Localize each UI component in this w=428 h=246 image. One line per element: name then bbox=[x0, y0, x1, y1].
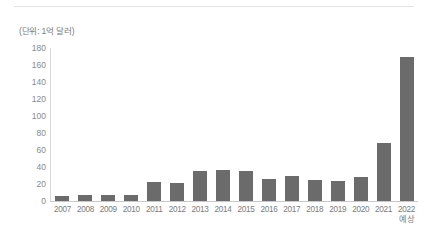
bar-slot bbox=[143, 48, 166, 201]
bar-slot bbox=[303, 48, 326, 201]
y-tick-label: 100 bbox=[6, 112, 46, 121]
bar-slot bbox=[280, 48, 303, 201]
x-tick-label: 2018 bbox=[303, 205, 326, 215]
bar[interactable] bbox=[170, 183, 184, 201]
bar[interactable] bbox=[308, 180, 322, 201]
x-tick-label-year: 2014 bbox=[215, 205, 232, 214]
y-tick-label: 120 bbox=[6, 95, 46, 104]
x-tick-label-year: 2012 bbox=[169, 205, 186, 214]
y-tick-label: 0 bbox=[6, 197, 46, 206]
x-tick-label: 2019 bbox=[326, 205, 349, 215]
y-tick-label: 60 bbox=[6, 146, 46, 155]
chart-page: (단위: 1억 달러) 020406080100120140160180 200… bbox=[0, 0, 428, 246]
bar-slot bbox=[235, 48, 258, 201]
x-tick-label: 2022예상 bbox=[395, 205, 418, 225]
bar-slot bbox=[326, 48, 349, 201]
y-tick-label: 40 bbox=[6, 163, 46, 172]
bar[interactable] bbox=[55, 196, 69, 201]
x-tick-label-year: 2019 bbox=[329, 205, 346, 214]
x-axis-line bbox=[50, 201, 418, 202]
y-tick-label: 160 bbox=[6, 61, 46, 70]
bar[interactable] bbox=[78, 195, 92, 201]
bar[interactable] bbox=[124, 195, 138, 201]
bar[interactable] bbox=[354, 177, 368, 201]
bar-series bbox=[51, 48, 418, 201]
bar-slot bbox=[120, 48, 143, 201]
x-tick-label: 2013 bbox=[189, 205, 212, 215]
bar-slot bbox=[74, 48, 97, 201]
x-tick-label: 2012 bbox=[166, 205, 189, 215]
x-tick-label-year: 2015 bbox=[237, 205, 254, 214]
bar-slot bbox=[97, 48, 120, 201]
x-tick-label-year: 2009 bbox=[100, 205, 117, 214]
bar[interactable] bbox=[193, 171, 207, 201]
x-tick-label-year: 2018 bbox=[306, 205, 323, 214]
x-tick-label-year: 2022 bbox=[398, 205, 415, 214]
bar-slot bbox=[349, 48, 372, 201]
x-tick-label-note: 예상 bbox=[395, 215, 418, 225]
bar[interactable] bbox=[377, 143, 391, 201]
y-tick-label: 20 bbox=[6, 180, 46, 189]
x-tick-label: 2017 bbox=[280, 205, 303, 215]
bar-slot bbox=[189, 48, 212, 201]
bar[interactable] bbox=[239, 171, 253, 201]
bar[interactable] bbox=[216, 170, 230, 201]
bar[interactable] bbox=[285, 176, 299, 201]
bar[interactable] bbox=[101, 195, 115, 201]
bar-slot bbox=[212, 48, 235, 201]
bar-slot bbox=[166, 48, 189, 201]
bar[interactable] bbox=[262, 179, 276, 201]
bar[interactable] bbox=[400, 57, 414, 202]
bar[interactable] bbox=[147, 182, 161, 201]
x-tick-label: 2014 bbox=[212, 205, 235, 215]
x-tick-label: 2015 bbox=[235, 205, 258, 215]
top-divider bbox=[14, 6, 414, 7]
x-tick-label-year: 2007 bbox=[54, 205, 71, 214]
bar[interactable] bbox=[331, 181, 345, 201]
x-tick-label: 2021 bbox=[372, 205, 395, 215]
bar-slot bbox=[51, 48, 74, 201]
bar-slot bbox=[395, 48, 418, 201]
x-tick-label-year: 2013 bbox=[192, 205, 209, 214]
x-tick-label: 2007 bbox=[51, 205, 74, 215]
x-tick-label: 2016 bbox=[257, 205, 280, 215]
y-axis-tick-labels: 020406080100120140160180 bbox=[4, 0, 46, 246]
x-tick-label: 2010 bbox=[120, 205, 143, 215]
x-tick-label-year: 2010 bbox=[123, 205, 140, 214]
x-tick-label: 2011 bbox=[143, 205, 166, 215]
x-tick-label-year: 2011 bbox=[146, 205, 162, 214]
x-tick-label: 2009 bbox=[97, 205, 120, 215]
bar-slot bbox=[372, 48, 395, 201]
x-tick-label-year: 2016 bbox=[260, 205, 277, 214]
x-axis-tick-labels: 2007200820092010201120122013201420152016… bbox=[51, 205, 418, 245]
y-tick-label: 140 bbox=[6, 78, 46, 87]
x-tick-label: 2020 bbox=[349, 205, 372, 215]
x-tick-label-year: 2020 bbox=[352, 205, 369, 214]
x-tick-label-year: 2008 bbox=[77, 205, 94, 214]
x-tick-label-year: 2017 bbox=[283, 205, 300, 214]
y-tick-label: 180 bbox=[6, 44, 46, 53]
bar-slot bbox=[257, 48, 280, 201]
x-tick-label: 2008 bbox=[74, 205, 97, 215]
y-tick-label: 80 bbox=[6, 129, 46, 138]
x-tick-label-year: 2021 bbox=[375, 205, 392, 214]
